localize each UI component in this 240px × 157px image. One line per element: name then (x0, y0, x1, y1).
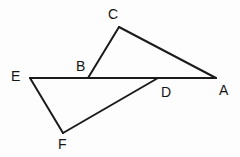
segment-FD (63, 78, 158, 133)
segment-CA (119, 27, 216, 78)
vertex-label-b: B (76, 59, 85, 73)
segment-EF (30, 78, 63, 133)
figure-canvas (0, 0, 240, 157)
vertex-label-d: D (161, 85, 171, 99)
vertex-label-f: F (58, 137, 67, 151)
segment-BC (88, 27, 119, 78)
vertex-label-a: A (219, 83, 228, 97)
vertex-label-c: C (108, 7, 118, 21)
geometry-figure: ABCDEF (0, 0, 240, 157)
segments-group (30, 27, 216, 133)
vertex-label-e: E (11, 69, 20, 83)
